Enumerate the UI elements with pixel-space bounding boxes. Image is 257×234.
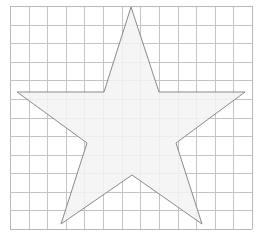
star-shape (17, 7, 245, 224)
star-grid-diagram (0, 0, 257, 234)
